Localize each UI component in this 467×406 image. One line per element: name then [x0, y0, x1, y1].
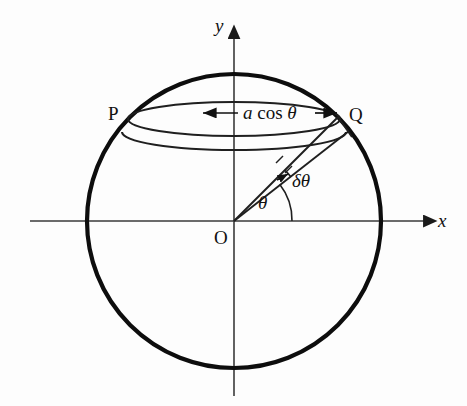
theta-symbol: θ [287, 102, 296, 123]
y-axis-label: y [215, 16, 223, 35]
figure-canvas: y x O P Q a cos θ δθ θ [0, 0, 467, 406]
theta-angle-arc [280, 184, 292, 221]
a-cos-theta-label: a cos θ [243, 103, 297, 122]
radius-line-to-Q [234, 117, 338, 221]
theta-label: θ [258, 193, 267, 212]
a-symbol: a [243, 102, 253, 123]
cos-symbol: cos [257, 102, 282, 123]
origin-label-O: O [214, 228, 228, 247]
geometry-diagram-svg [0, 0, 467, 406]
point-label-Q: Q [349, 105, 363, 124]
delta-theta-label: δθ [292, 171, 310, 190]
x-axis-label: x [438, 211, 446, 230]
point-label-P: P [108, 104, 119, 123]
